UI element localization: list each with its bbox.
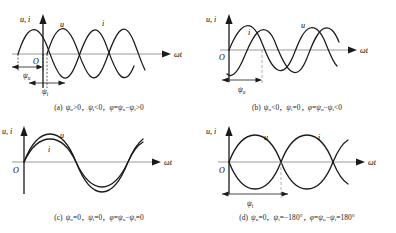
- curve-i-label: i: [248, 28, 250, 37]
- caption-b-psi-u: ψ: [264, 103, 269, 112]
- caption-a-phi-b-sub: i: [134, 107, 136, 112]
- caption-a-tag: (a): [54, 103, 63, 112]
- caption-c-rel1: =0，: [73, 213, 88, 222]
- x-axis-label: ωt: [360, 46, 369, 55]
- caption-b-rel1: <0，: [271, 103, 286, 112]
- caption-d-tag: (d): [239, 213, 248, 222]
- y-axis-arrow: [39, 14, 46, 24]
- psi-i-arrow-left: [222, 192, 229, 197]
- panel-a: u, i ωt O u i ψu ψi (a)ψu>0，ψi<0，φ=ψu−ψi…: [0, 0, 198, 116]
- psi-u-arrow-left: [222, 78, 229, 83]
- curve-i-label: i: [48, 145, 50, 154]
- x-axis-arrow: [162, 51, 171, 58]
- caption-b-rel2: =0，: [293, 103, 308, 112]
- caption-d: (d)ψu=0，ψi=−180°，φ=ψu−ψi=180°: [198, 211, 396, 222]
- y-axis-arrow: [225, 14, 232, 24]
- curve-i: [24, 139, 143, 187]
- origin-label: O: [219, 166, 225, 175]
- panel-c-plot: u, i ωt O u i: [0, 116, 198, 212]
- y-axis-label: u, i: [206, 15, 216, 24]
- x-axis-label: ωt: [368, 158, 377, 167]
- panel-b-plot: u, i ωt O i u ψu: [198, 0, 396, 100]
- caption-a-phi-a-sub: u: [123, 107, 126, 112]
- psi-u-label: ψu: [238, 85, 246, 95]
- caption-a: (a)ψu>0，ψi<0，φ=ψu−ψi>0: [0, 101, 198, 112]
- panel-d: u, i ωt O u i ψi (d)ψu=0，ψi=−180°，φ=ψu−ψ…: [198, 116, 396, 233]
- y-axis-arrow: [20, 126, 27, 136]
- psi-u-label: ψu: [23, 71, 31, 81]
- caption-a-rel1: >0，: [73, 103, 88, 112]
- caption-a-rel2: <0，: [94, 103, 109, 112]
- caption-d-rel3: =180°: [336, 213, 355, 222]
- caption-c-phi-a-sub: u: [123, 217, 126, 222]
- caption-d-psi-u-sub: u: [256, 217, 259, 222]
- caption-d-phi-b: ψ: [330, 213, 335, 222]
- caption-c: (c)ψu=0，ψi=0，φ=ψu−ψi=0: [0, 211, 198, 222]
- caption-b-phi-a-sub: u: [321, 107, 324, 112]
- x-axis-label: ωt: [164, 158, 173, 167]
- caption-d-psi-i-sub: i: [278, 217, 280, 222]
- caption-c-psi-u-sub: u: [70, 217, 73, 222]
- psi-i-arrow-right: [59, 81, 66, 86]
- y-axis-arrow: [225, 126, 232, 136]
- caption-b-rel3: <0: [334, 103, 342, 112]
- psi-i-arrow-left: [29, 81, 36, 86]
- caption-a-psi-u-sub: u: [70, 107, 73, 112]
- caption-b-phi-b-sub: i: [332, 107, 334, 112]
- curve-i-label: i: [318, 133, 320, 142]
- psi-u-arrow-left: [12, 65, 19, 70]
- panel-d-plot: u, i ωt O u i ψi: [198, 116, 396, 212]
- caption-a-rel3: >0: [136, 103, 144, 112]
- curve-i: [47, 29, 145, 78]
- y-axis-label: u, i: [2, 127, 12, 136]
- caption-d-rel1: =0，: [258, 213, 273, 222]
- caption-d-phi-b-sub: i: [335, 217, 337, 222]
- x-axis-arrow: [152, 159, 161, 166]
- origin-label: O: [13, 166, 19, 175]
- panel-c: u, i ωt O u i (c)ψu=0，ψi=0，φ=ψu−ψi=0: [0, 116, 198, 233]
- caption-b-tag: (b): [252, 103, 261, 112]
- panel-b: u, i ωt O i u ψu (b)ψu<0，ψi=0，φ=ψu−ψi<0: [198, 0, 396, 116]
- figure-grid: u, i ωt O u i ψu ψi (a)ψu>0，ψi<0，φ=ψu−ψi…: [0, 0, 396, 233]
- caption-b-psi-u-sub: u: [269, 107, 272, 112]
- panel-a-plot: u, i ωt O u i ψu ψi: [0, 0, 198, 100]
- curve-u-label: u: [264, 133, 268, 142]
- psi-i-label: ψi: [247, 199, 254, 209]
- curve-u-label: u: [60, 20, 64, 29]
- psi-u-arrow-right: [256, 78, 263, 83]
- psi-i-arrow-right: [282, 192, 289, 197]
- curve-i-label: i: [102, 19, 104, 28]
- caption-c-phi-a: ψ: [118, 213, 123, 222]
- curve-u: [24, 134, 143, 192]
- caption-b: (b)ψu<0，ψi=0，φ=ψu−ψi<0: [198, 101, 396, 112]
- caption-c-phi-b-sub: i: [134, 217, 136, 222]
- caption-c-tag: (c): [54, 213, 63, 222]
- x-axis-arrow: [348, 47, 357, 54]
- y-axis-label: u, i: [206, 127, 216, 136]
- curve-i: [229, 26, 337, 71]
- curve-u-label: u: [60, 131, 64, 140]
- caption-a-phi-a: ψ: [118, 103, 123, 112]
- caption-c-rel2: =0，: [94, 213, 109, 222]
- caption-c-rel3: =0: [136, 213, 144, 222]
- x-axis-label: ωt: [174, 50, 183, 59]
- curve-u-label: u: [301, 21, 305, 30]
- x-axis-arrow: [356, 159, 365, 166]
- caption-b-psi-i-sub: i: [291, 107, 293, 112]
- y-axis-label: u, i: [20, 15, 30, 24]
- psi-i-label: ψi: [42, 87, 49, 97]
- caption-d-phi-a-sub: u: [323, 217, 326, 222]
- origin-label: O: [33, 57, 39, 66]
- origin-label: O: [219, 53, 225, 62]
- caption-d-rel2: =−180°，: [280, 213, 310, 222]
